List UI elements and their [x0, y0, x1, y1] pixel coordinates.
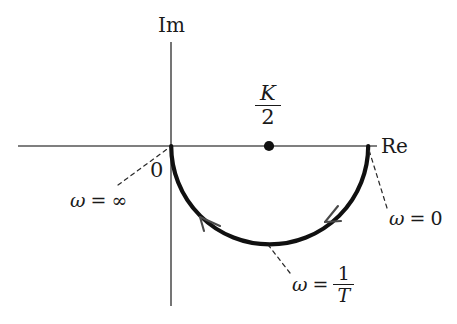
real-axis-label: Re	[381, 136, 408, 156]
omega-symbol: ω	[389, 209, 405, 228]
omega-symbol: ω	[70, 191, 86, 210]
nyquist-diagram	[0, 0, 457, 324]
omega-symbol: ω	[292, 275, 308, 294]
k-over-two-point-marker	[264, 141, 274, 151]
k-over-two-denominator: 2	[256, 106, 279, 128]
annotation-omega-infinity: ω = ∞	[70, 191, 127, 210]
equals-sign: =	[410, 209, 426, 228]
annotation-omega-zero: ω = 0	[389, 209, 443, 228]
k-over-two-label: K 2	[255, 83, 281, 128]
one-over-t-denominator: T	[333, 285, 354, 305]
annotation-omega-one-over-t: ω = 1 T	[292, 264, 354, 305]
equals-sign: =	[313, 275, 329, 294]
equals-sign: =	[91, 191, 107, 210]
origin-label: 0	[150, 160, 163, 181]
one-over-t-numerator: 1	[334, 264, 354, 284]
zero-value: 0	[430, 209, 442, 228]
leader-line-omega-one-over-t	[269, 246, 290, 273]
imaginary-axis-label: Im	[158, 15, 185, 35]
nyquist-curve	[171, 146, 368, 244]
leader-line-omega-zero	[369, 150, 387, 208]
k-over-two-numerator: K	[255, 83, 281, 105]
infinity-symbol: ∞	[111, 191, 127, 210]
figure-canvas: Im Re 0 K 2 ω = ∞ ω = 0 ω = 1 T	[0, 0, 457, 324]
